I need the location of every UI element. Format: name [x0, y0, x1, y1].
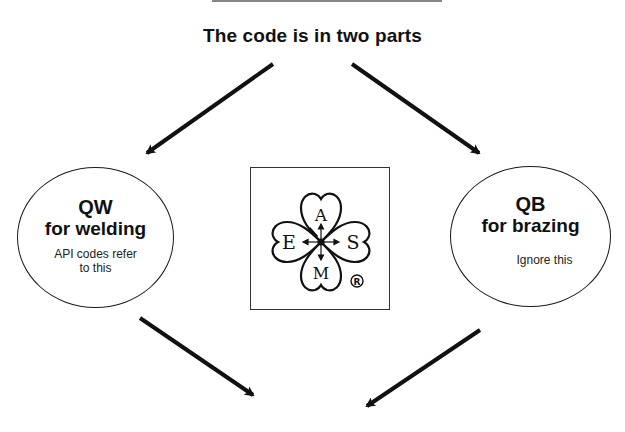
arrow-title-to-qb	[352, 64, 479, 153]
arrow-qw-to-below	[140, 318, 253, 395]
logo-letter-a: A	[314, 205, 328, 225]
arrow-qb-to-below	[367, 330, 480, 406]
qb-note: Ignore this	[479, 253, 610, 267]
qw-welding-node: QW for welding API codes refer to this	[17, 167, 174, 308]
qb-brazing-node: QB for brazing Ignore this	[450, 166, 611, 307]
asme-logo-box: A E S M R	[250, 167, 390, 310]
svg-text:R: R	[354, 277, 361, 287]
logo-letter-m: M	[313, 264, 329, 283]
qw-note: API codes refer to this	[18, 247, 173, 275]
asme-clover-logo-icon: A E S M R	[251, 168, 388, 308]
registered-mark-icon: R	[351, 275, 363, 287]
arrow-title-to-qw	[147, 64, 273, 153]
logo-letter-s: S	[346, 231, 359, 253]
qw-code-label: QW	[18, 196, 173, 218]
qw-note-line1: API codes refer	[18, 247, 173, 261]
qb-purpose-label: for brazing	[451, 215, 610, 237]
qb-code-label: QB	[451, 193, 610, 215]
logo-letter-e: E	[282, 231, 296, 253]
qw-note-line2: to this	[18, 261, 173, 275]
qw-purpose-label: for welding	[18, 218, 173, 240]
